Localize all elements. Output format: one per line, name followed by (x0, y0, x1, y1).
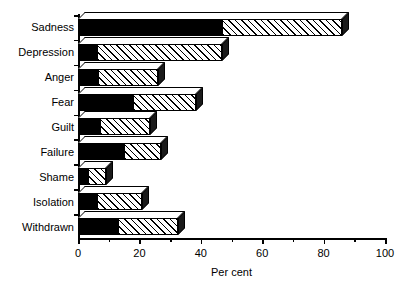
bar-top-face (78, 62, 165, 69)
bar-fear (78, 94, 196, 111)
y-axis-label-fear: Fear (0, 96, 74, 108)
x-axis-title: Per cent (78, 266, 385, 278)
bar-segment-solid (79, 20, 222, 35)
y-tick (74, 15, 79, 17)
x-tick-label: 40 (181, 247, 221, 259)
x-tick-minor (170, 238, 172, 242)
bar-top-face (78, 136, 168, 143)
x-tick-minor (354, 238, 356, 242)
bar-front-face (78, 69, 158, 86)
bar-guilt (78, 118, 150, 135)
bar-withdrawn (78, 218, 178, 235)
bar-front-face (78, 143, 161, 160)
bar-top-face (78, 211, 185, 218)
x-tick-minor (109, 238, 111, 242)
bar-segment-solid (79, 119, 100, 134)
x-tick-label: 0 (58, 247, 98, 259)
y-axis-labels: SadnessDepressionAngerFearGuiltFailureSh… (0, 14, 74, 238)
y-axis-label-anger: Anger (0, 71, 74, 83)
bar-segment-hatched (124, 144, 160, 159)
x-tick (78, 238, 80, 244)
x-tick (201, 238, 203, 244)
x-tick-label: 100 (365, 247, 405, 259)
plot-area: 020406080100 Per cent (78, 14, 385, 238)
bar-sadness (78, 19, 342, 36)
bar-front-face (78, 118, 150, 135)
bar-segment-solid (79, 219, 118, 234)
x-tick (324, 238, 326, 244)
bar-front-face (78, 168, 106, 185)
y-tick (74, 139, 79, 141)
y-tick (74, 65, 79, 67)
y-axis-label-sadness: Sadness (0, 21, 74, 33)
bar-depression (78, 44, 222, 61)
x-tick-label: 20 (119, 247, 159, 259)
bar-segment-solid (79, 194, 97, 209)
x-tick (139, 238, 141, 244)
bar-front-face (78, 218, 178, 235)
y-axis-label-shame: Shame (0, 171, 74, 183)
y-tick (74, 164, 79, 166)
y-tick (74, 90, 79, 92)
bar-front-face (78, 193, 142, 210)
bar-segment-solid (79, 70, 98, 85)
x-tick (262, 238, 264, 244)
bar-segment-solid (79, 144, 124, 159)
bar-front-face (78, 19, 342, 36)
bar-side-face (150, 111, 157, 135)
y-axis-label-guilt: Guilt (0, 121, 74, 133)
bar-segment-hatched (118, 219, 177, 234)
bar-anger (78, 69, 158, 86)
bar-segment-hatched (100, 119, 149, 134)
y-tick (74, 115, 79, 117)
bar-segment-hatched (88, 169, 105, 184)
x-tick-minor (293, 238, 295, 242)
bar-top-face (78, 186, 149, 193)
bar-segment-solid (79, 45, 97, 60)
bar-segment-hatched (98, 70, 156, 85)
bar-segment-hatched (97, 194, 142, 209)
bar-segment-solid (79, 169, 88, 184)
x-tick-minor (232, 238, 234, 242)
y-axis-label-depression: Depression (0, 46, 74, 58)
bar-top-face (78, 87, 203, 94)
y-axis-label-isolation: Isolation (0, 196, 74, 208)
bar-segment-hatched (97, 45, 221, 60)
y-axis-label-withdrawn: Withdrawn (0, 221, 74, 233)
y-tick (74, 40, 79, 42)
bar-segment-solid (79, 95, 133, 110)
bar-chart: SadnessDepressionAngerFearGuiltFailureSh… (0, 0, 410, 283)
y-axis-label-failure: Failure (0, 146, 74, 158)
bar-segment-hatched (133, 95, 195, 110)
x-tick-label: 80 (304, 247, 344, 259)
y-tick (74, 189, 79, 191)
x-tick (385, 238, 387, 244)
bar-segment-hatched (222, 20, 341, 35)
bar-shame (78, 168, 106, 185)
bar-top-face (78, 111, 157, 118)
bar-failure (78, 143, 161, 160)
y-tick (74, 214, 79, 216)
x-tick-label: 60 (242, 247, 282, 259)
bar-side-face (142, 186, 149, 210)
bar-top-face (78, 37, 229, 44)
bar-top-face (78, 12, 349, 19)
bar-front-face (78, 94, 196, 111)
bar-isolation (78, 193, 142, 210)
bar-front-face (78, 44, 222, 61)
